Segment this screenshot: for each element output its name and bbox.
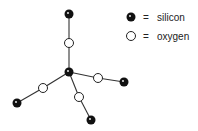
- atoms: [13, 10, 129, 125]
- oxygen-atom-icon: [65, 39, 74, 48]
- atom-highlight: [122, 80, 124, 82]
- legend-label-silicon: silicon: [157, 12, 185, 23]
- silicon-atom-icon: [127, 13, 136, 22]
- silicon-atom-icon: [87, 116, 96, 125]
- legend-equals: =: [143, 31, 149, 42]
- oxygen-atom-icon: [94, 74, 103, 83]
- bonds: [17, 14, 124, 120]
- silicon-atom-icon: [13, 99, 22, 108]
- legend-label-oxygen: oxygen: [157, 31, 189, 42]
- silicon-atom-icon: [65, 10, 74, 19]
- silicon-atom-icon: [65, 68, 74, 77]
- legend: = silicon = oxygen: [127, 12, 190, 42]
- legend-equals: =: [143, 12, 149, 23]
- atom-highlight: [89, 118, 91, 120]
- oxygen-atom-icon: [39, 84, 48, 93]
- atom-highlight: [129, 15, 131, 17]
- legend-item-silicon: = silicon: [127, 12, 185, 23]
- silicon-atom-icon: [120, 78, 129, 87]
- atom-highlight: [67, 12, 69, 14]
- oxygen-atom-icon: [127, 32, 136, 41]
- atom-highlight: [67, 70, 69, 72]
- silica-tetrahedron-diagram: = silicon = oxygen: [0, 0, 198, 131]
- legend-item-oxygen: = oxygen: [127, 31, 190, 42]
- oxygen-atom-icon: [75, 93, 84, 102]
- atom-highlight: [15, 101, 17, 103]
